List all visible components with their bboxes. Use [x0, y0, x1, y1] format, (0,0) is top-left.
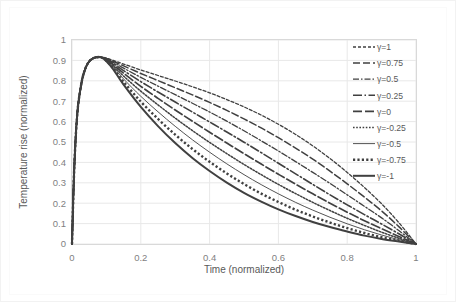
chart-container: 00.10.20.30.40.50.60.70.80.91 00.20.40.6…: [0, 0, 456, 302]
y-tick-label: 0.8: [53, 75, 66, 86]
legend-label-γ=1: γ=1: [377, 42, 391, 52]
legend-label-γ=0.5: γ=0.5: [377, 74, 398, 84]
x-axis-tick-labels: 00.20.40.60.81: [69, 252, 418, 263]
y-tick-label: 0.9: [53, 55, 66, 66]
legend-label-γ=-0.25: γ=-0.25: [377, 123, 406, 133]
y-tick-label: 0.4: [53, 157, 66, 168]
x-tick-label: 0.4: [203, 252, 216, 263]
x-axis-title: Time (normalized): [204, 264, 284, 275]
legend-label-γ=-0.5: γ=-0.5: [377, 139, 401, 149]
y-tick-label: 0.2: [53, 198, 66, 209]
x-tick-label: 1: [413, 252, 418, 263]
legend-label-γ=0.25: γ=0.25: [377, 91, 403, 101]
legend-label-γ=0.75: γ=0.75: [377, 58, 403, 68]
x-tick-label: 0: [69, 252, 74, 263]
legend-label-γ=0: γ=0: [377, 107, 391, 117]
y-axis-tick-labels: 00.10.20.30.40.50.60.70.80.91: [53, 34, 66, 249]
x-tick-label: 0.6: [272, 252, 285, 263]
curve-γ=-1: [72, 57, 416, 244]
y-tick-label: 0.3: [53, 177, 66, 188]
y-tick-label: 0.5: [53, 136, 66, 147]
legend-label-γ=-0.75: γ=-0.75: [377, 155, 406, 165]
y-tick-label: 1: [61, 34, 66, 45]
legend: γ=1γ=0.75γ=0.5γ=0.25γ=0γ=-0.25γ=-0.5γ=-0…: [353, 42, 406, 181]
y-tick-label: 0: [61, 238, 66, 249]
x-tick-label: 0.8: [341, 252, 354, 263]
y-tick-label: 0.6: [53, 116, 66, 127]
data-curves: [72, 57, 416, 244]
y-tick-label: 0.7: [53, 96, 66, 107]
legend-label-γ=-1: γ=-1: [377, 171, 394, 181]
y-tick-label: 0.1: [53, 218, 66, 229]
x-tick-label: 0.2: [134, 252, 147, 263]
y-axis-title: Temperature rise (normalized): [18, 75, 29, 208]
chart-svg: 00.10.20.30.40.50.60.70.80.91 00.20.40.6…: [1, 1, 456, 302]
